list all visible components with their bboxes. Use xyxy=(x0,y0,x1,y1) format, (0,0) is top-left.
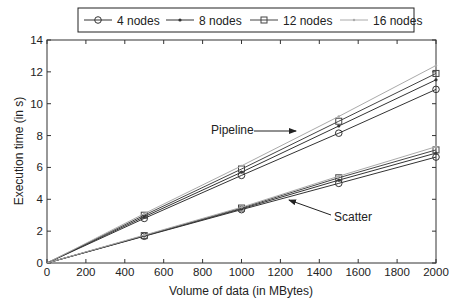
x-tick-label: 200 xyxy=(76,266,95,278)
dot-marker-icon xyxy=(337,124,340,127)
point-marker-icon xyxy=(143,234,145,236)
point-marker-icon xyxy=(435,64,437,66)
point-marker-icon xyxy=(338,115,340,117)
x-tick-label: 800 xyxy=(193,266,212,278)
legend-label: 16 nodes xyxy=(373,14,422,28)
legend-label: 8 nodes xyxy=(199,14,242,28)
point-marker-icon xyxy=(240,206,242,208)
series-pipeline-12-nodes xyxy=(47,70,439,263)
point-marker-icon xyxy=(435,146,437,148)
point-marker-icon xyxy=(240,165,242,167)
y-tick-label: 14 xyxy=(30,34,43,46)
arrow-icon xyxy=(289,200,331,215)
annotation-scatter-label: Scatter xyxy=(334,210,372,224)
series-scatter-12-nodes xyxy=(47,147,439,263)
y-tick-label: 0 xyxy=(37,257,43,269)
point-marker-icon xyxy=(353,19,355,21)
x-tick-label: 600 xyxy=(154,266,173,278)
series-line xyxy=(47,89,436,263)
x-tick-label: 1800 xyxy=(384,266,410,278)
y-tick-label: 10 xyxy=(30,98,43,110)
y-tick-label: 4 xyxy=(37,193,44,205)
series-scatter-16-nodes xyxy=(47,146,437,263)
annotation-pipeline-label: Pipeline xyxy=(211,123,254,137)
y-axis-label: Execution time (in s) xyxy=(12,97,26,206)
series-line xyxy=(47,73,436,263)
x-tick-label: 2000 xyxy=(423,266,449,278)
legend-label: 4 nodes xyxy=(117,14,160,28)
x-tick-label: 1600 xyxy=(345,266,371,278)
y-tick-label: 12 xyxy=(30,66,43,78)
y-tick-label: 8 xyxy=(37,130,43,142)
legend-label: 12 nodes xyxy=(283,14,332,28)
series-pipeline-4-nodes xyxy=(47,86,439,263)
x-tick-label: 0 xyxy=(44,266,50,278)
x-tick-label: 1200 xyxy=(268,266,294,278)
series-pipeline-8-nodes xyxy=(47,78,438,263)
x-axis: 0200400600800100012001400160018002000 xyxy=(44,40,449,278)
plot-border xyxy=(47,40,436,263)
x-tick-label: 1000 xyxy=(229,266,255,278)
y-tick-label: 6 xyxy=(37,161,43,173)
plot-area xyxy=(47,40,436,263)
y-axis: 02468101214 xyxy=(30,34,436,269)
dot-marker-icon xyxy=(434,78,437,81)
dot-marker-icon xyxy=(178,18,181,21)
legend: 4 nodes8 nodes12 nodes16 nodes xyxy=(78,8,422,32)
dot-marker-icon xyxy=(337,179,340,182)
point-marker-icon xyxy=(143,212,145,214)
x-axis-label: Volume of data (in MBytes) xyxy=(169,284,313,298)
y-tick-label: 2 xyxy=(37,225,43,237)
x-tick-label: 1400 xyxy=(307,266,333,278)
series-layer xyxy=(47,64,439,263)
x-tick-label: 400 xyxy=(115,266,134,278)
point-marker-icon xyxy=(338,175,340,177)
line-chart: 4 nodes8 nodes12 nodes16 nodes 020040060… xyxy=(0,0,464,305)
